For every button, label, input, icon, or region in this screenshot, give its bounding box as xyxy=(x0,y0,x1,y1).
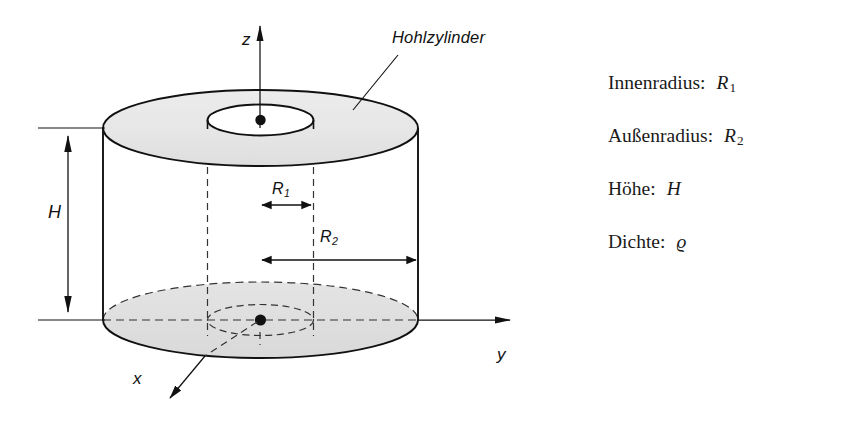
legend-symbol-outer-radius: R2 xyxy=(713,125,744,149)
legend-row-inner-radius: Innenradius: R1 xyxy=(608,72,848,125)
dimension-label-height: H xyxy=(48,202,61,223)
legend-term-height: Höhe: xyxy=(608,178,656,200)
r2-subscript: 2 xyxy=(332,235,338,247)
hollow-cylinder-drawing xyxy=(0,0,560,442)
legend-symbol-density: ϱ xyxy=(665,231,686,253)
legend-row-outer-radius: Außenradius: R2 xyxy=(608,125,848,178)
r1-symbol: R xyxy=(272,180,284,197)
legend-symbol-outer-radius-base: R xyxy=(724,125,736,146)
legend-term-inner-radius: Innenradius: xyxy=(608,72,705,94)
legend-symbol-inner-radius: R1 xyxy=(705,72,736,96)
hollow-cylinder-figure: Hohlzylinder z y x H R1 R2 xyxy=(0,0,560,442)
dimension-label-outer-radius: R2 xyxy=(320,228,338,247)
hohlzylinder-label: Hohlzylinder xyxy=(392,28,485,47)
r2-symbol: R xyxy=(320,228,332,245)
legend-row-height: Höhe: H xyxy=(608,178,848,231)
axis-label-x: x xyxy=(133,369,142,389)
dimension-height xyxy=(38,128,105,320)
legend-symbol-outer-radius-sub: 2 xyxy=(736,133,744,148)
dimension-label-inner-radius: R1 xyxy=(272,180,290,199)
legend-term-outer-radius: Außenradius: xyxy=(608,125,713,147)
r1-subscript: 1 xyxy=(284,187,290,199)
axis-label-z: z xyxy=(242,30,251,50)
legend-term-density: Dichte: xyxy=(608,231,665,253)
origin-dot xyxy=(255,314,266,325)
top-center-dot xyxy=(255,115,265,125)
legend-row-density: Dichte: ϱ xyxy=(608,231,848,284)
parameter-legend: Innenradius: R1 Außenradius: R2 Höhe: H … xyxy=(608,72,848,284)
legend-symbol-inner-radius-sub: 1 xyxy=(728,80,736,95)
figure-page: Hohlzylinder z y x H R1 R2 Innenradius: … xyxy=(0,0,853,442)
legend-symbol-inner-radius-base: R xyxy=(716,72,728,93)
legend-symbol-height: H xyxy=(656,178,681,200)
axis-label-y: y xyxy=(497,345,506,365)
